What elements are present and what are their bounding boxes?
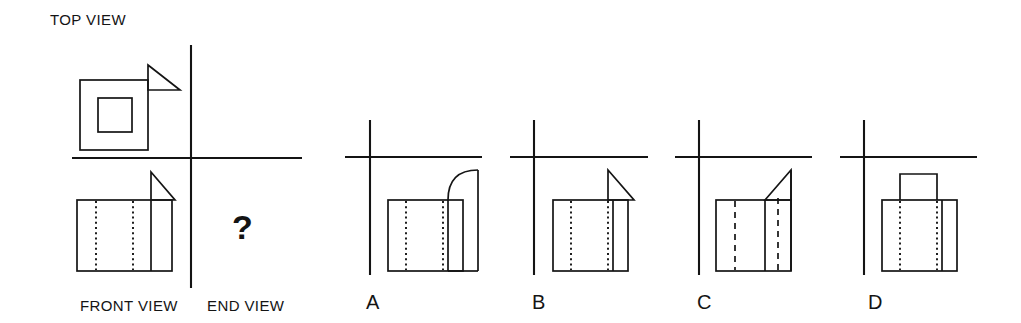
option-d-rectangle [882,200,957,271]
projection-question-canvas: TOP VIEW FRONT VIEW END VIEW ? A B C D [0,0,1021,323]
option-d-boss-rectangle-icon [900,174,937,200]
option-d-drawing[interactable] [0,0,1021,323]
